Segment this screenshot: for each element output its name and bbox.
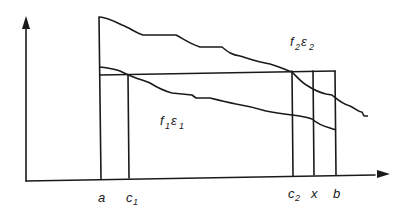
xlabel-c1-sub: 1 <box>133 197 138 207</box>
label-f1-e: ε <box>171 113 177 128</box>
xlabel-a: a <box>98 190 105 205</box>
vline-b <box>335 71 336 175</box>
x-axis-arrow-icon <box>377 170 390 178</box>
xlabel-c2-sub: 2 <box>294 193 300 203</box>
diagram-canvas: f 2 ε 2 f 1 ε 1 a c 1 c 2 x b <box>0 0 410 217</box>
y-axis-arrow-icon <box>22 16 30 29</box>
xlabel-x: x <box>310 186 318 201</box>
curve-f1 <box>100 67 336 130</box>
xlabel-b: b <box>333 186 340 201</box>
horizontal-level-line <box>100 71 335 75</box>
label-f1-e-sub: 1 <box>179 121 184 131</box>
vline-c2 <box>292 71 293 176</box>
label-f1-e1: f 1 ε 1 <box>160 113 184 131</box>
xlabel-c1: c <box>126 190 133 205</box>
xlabel-c2: c <box>288 186 295 201</box>
label-f2-f-sub: 2 <box>294 42 300 52</box>
label-f1-f-sub: 1 <box>165 121 170 131</box>
vline-a <box>99 17 101 179</box>
label-f2-e: ε <box>301 34 307 49</box>
vline-c1 <box>128 75 129 178</box>
label-f2-e-sub: 2 <box>308 42 314 52</box>
x-axis <box>26 175 375 181</box>
curve-f2 <box>99 17 368 116</box>
vline-x <box>313 71 314 175</box>
label-f2-e2: f 2 ε 2 <box>290 34 314 52</box>
